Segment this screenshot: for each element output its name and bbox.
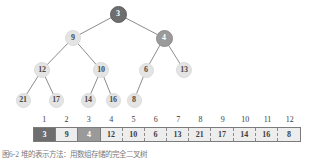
tree-node-label: 21 (19, 96, 27, 104)
array-cells-row: 3941210613211714168 (33, 127, 301, 142)
tree-node-14: 14 (81, 93, 96, 108)
tree-node-label: 10 (97, 66, 105, 74)
tree-node-9: 9 (65, 30, 81, 46)
tree-node-12: 12 (34, 62, 50, 78)
array-cell-value: 8 (287, 131, 291, 139)
array-cell-9: 17 (211, 128, 233, 141)
tree-node-label: 8 (132, 96, 136, 104)
array-cell-3: 4 (78, 128, 100, 141)
tree-edges (0, 0, 314, 112)
tree-node-16: 16 (106, 93, 121, 108)
tree-edge (79, 18, 111, 35)
tree-node-label: 9 (71, 34, 75, 42)
tree-edge (26, 76, 38, 95)
array-representation: 123456789101112 3941210613211714168 (33, 114, 301, 146)
tree-node-3: 3 (110, 6, 127, 23)
array-cell-value: 3 (43, 131, 47, 139)
tree-node-label: 4 (162, 34, 166, 42)
tree-edge (91, 76, 99, 94)
tree-diagram: 3941210613211714168 (0, 0, 314, 112)
array-cell-12: 8 (278, 128, 300, 141)
tree-node-label: 6 (144, 66, 148, 74)
tree-edge (168, 44, 180, 64)
tree-node-21: 21 (16, 93, 31, 108)
figure-caption: 图6-2 堆的表示方法：用数组存储的完全二叉树 (0, 150, 314, 160)
tree-node-17: 17 (49, 93, 64, 108)
tree-node-label: 17 (52, 96, 60, 104)
array-cell-10: 14 (234, 128, 256, 141)
tree-node-label: 13 (180, 66, 188, 74)
array-index-2: 2 (55, 114, 77, 125)
array-cell-value: 16 (262, 131, 270, 139)
array-index-8: 8 (189, 114, 211, 125)
tree-edge (47, 43, 68, 65)
tree-node-label: 16 (109, 96, 117, 104)
array-cell-1: 3 (34, 128, 56, 141)
array-index-6: 6 (145, 114, 167, 125)
array-index-4: 4 (100, 114, 122, 125)
array-cell-value: 21 (196, 131, 204, 139)
array-cell-value: 4 (87, 131, 91, 139)
array-cell-5: 10 (123, 128, 145, 141)
tree-edge (45, 76, 53, 94)
array-cell-2: 9 (56, 128, 78, 141)
tree-node-label: 3 (116, 10, 120, 18)
tree-edge (104, 77, 111, 94)
tree-node-6: 6 (139, 63, 154, 78)
tree-edge (136, 76, 143, 94)
tree-edge (149, 45, 160, 65)
tree-node-label: 14 (84, 96, 92, 104)
binary-heap-figure: 3941210613211714168 123456789101112 3941… (0, 0, 314, 160)
tree-node-10: 10 (93, 62, 109, 78)
array-index-3: 3 (78, 114, 100, 125)
array-index-row: 123456789101112 (33, 114, 301, 126)
array-index-10: 10 (234, 114, 256, 125)
array-index-9: 9 (212, 114, 234, 125)
array-index-1: 1 (33, 114, 55, 125)
figure-caption-text: 图6-2 堆的表示方法：用数组存储的完全二叉树 (0, 150, 314, 160)
array-cell-value: 6 (153, 131, 157, 139)
array-index-11: 11 (256, 114, 278, 125)
array-cell-6: 6 (145, 128, 167, 141)
array-cell-value: 9 (65, 131, 69, 139)
tree-node-8: 8 (127, 93, 142, 108)
array-cell-8: 21 (189, 128, 211, 141)
array-cell-value: 17 (218, 131, 226, 139)
array-cell-value: 10 (129, 131, 137, 139)
array-index-5: 5 (122, 114, 144, 125)
tree-node-4: 4 (156, 30, 173, 47)
array-cell-value: 13 (174, 131, 182, 139)
array-cell-11: 16 (256, 128, 278, 141)
tree-node-label: 12 (38, 66, 46, 74)
tree-node-13: 13 (176, 62, 192, 78)
array-cell-7: 13 (167, 128, 189, 141)
array-cell-value: 12 (107, 131, 115, 139)
array-cell-value: 14 (240, 131, 248, 139)
array-index-12: 12 (279, 114, 301, 125)
tree-edge (78, 43, 97, 64)
array-index-7: 7 (167, 114, 189, 125)
tree-edge (125, 17, 158, 34)
array-cell-4: 12 (101, 128, 123, 141)
